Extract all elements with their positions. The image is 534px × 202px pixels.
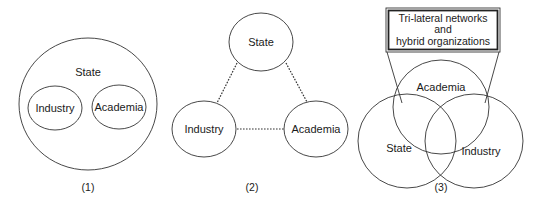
state-academia-connector	[286, 63, 307, 102]
panel-2-laissez-faire-model: State Industry Academia (2)	[172, 13, 348, 193]
panel-2-caption: (2)	[246, 181, 259, 193]
panel-3-caption: (3)	[435, 181, 448, 193]
state-label: State	[75, 66, 101, 78]
state-label: State	[248, 36, 274, 48]
callout-line-3: hybrid organizations	[396, 35, 490, 47]
industry-label: Industry	[184, 123, 224, 135]
callout-line-2: and	[434, 23, 452, 35]
industry-label: Industry	[35, 102, 75, 114]
panel-3-triple-helix-model: Tri-lateral networks and hybrid organiza…	[358, 8, 523, 193]
panel-1-caption: (1)	[82, 181, 95, 193]
state-industry-connector	[217, 63, 237, 103]
state-circle	[358, 94, 456, 188]
academia-label: Academia	[417, 81, 467, 93]
triple-helix-diagram: State Industry Academia (1) State Indust…	[0, 0, 534, 202]
state-label: State	[386, 142, 412, 154]
industry-label: Industry	[461, 145, 501, 157]
academia-label: Academia	[292, 123, 342, 135]
panel-1-statist-model: State Industry Academia (1)	[19, 38, 157, 193]
academia-label: Academia	[95, 101, 145, 113]
